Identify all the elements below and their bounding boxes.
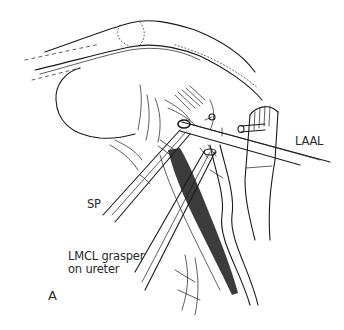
laal-label: LAAL xyxy=(295,135,323,148)
panel-label: A xyxy=(48,288,57,303)
vessel-stump xyxy=(238,106,278,240)
lower-tissue xyxy=(175,255,200,315)
surgical-illustration: LAAL SP LMCL grasper on ureter A xyxy=(0,0,344,330)
lmcl-label-line2: on ureter xyxy=(68,263,119,276)
sp-label: SP xyxy=(87,198,101,211)
abdominal-wall xyxy=(25,21,262,100)
